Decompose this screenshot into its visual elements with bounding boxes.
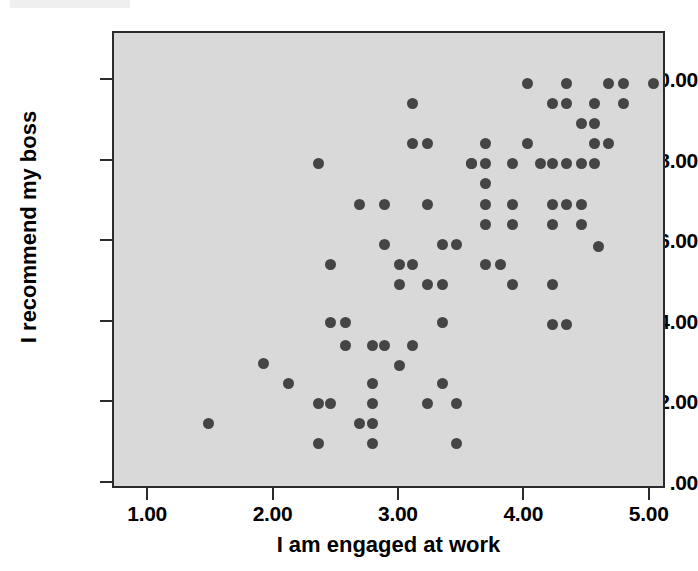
data-point [283, 378, 294, 389]
y-axis-tick [100, 78, 112, 80]
x-axis-tick-label: 3.00 [338, 503, 458, 524]
data-point [451, 438, 462, 449]
data-point [437, 317, 448, 328]
y-axis-tick [100, 320, 112, 322]
plot-area [112, 31, 665, 488]
data-point [422, 398, 433, 409]
data-point [589, 118, 600, 129]
data-point [648, 78, 659, 89]
data-point [561, 78, 572, 89]
data-point [618, 98, 629, 109]
y-axis-tick [100, 400, 112, 402]
data-point [603, 78, 614, 89]
data-point [407, 138, 418, 149]
data-point [340, 340, 351, 351]
data-point [547, 319, 558, 330]
data-point [547, 158, 558, 169]
data-point [507, 279, 518, 290]
data-point [367, 418, 378, 429]
data-point [589, 158, 600, 169]
data-point [313, 158, 324, 169]
x-axis-title: I am engaged at work [112, 532, 665, 558]
data-point [561, 158, 572, 169]
data-point [367, 438, 378, 449]
data-point [522, 78, 533, 89]
data-point [422, 138, 433, 149]
data-point [203, 418, 214, 429]
x-axis-tick [146, 488, 148, 500]
data-point [576, 219, 587, 230]
x-axis-tick-label: 2.00 [213, 503, 333, 524]
y-axis-tick [100, 481, 112, 483]
page-artifact [10, 0, 130, 8]
x-axis-tick [397, 488, 399, 500]
data-point [394, 360, 405, 371]
data-point [480, 199, 491, 210]
data-point [451, 398, 462, 409]
data-point [480, 178, 491, 189]
data-point [367, 378, 378, 389]
x-axis-tick-label: 4.00 [463, 503, 583, 524]
data-point [618, 78, 629, 89]
data-point [480, 138, 491, 149]
data-point [547, 199, 558, 210]
x-axis-tick-label: 1.00 [87, 503, 207, 524]
data-point [379, 199, 390, 210]
data-point [437, 239, 448, 250]
data-point [507, 219, 518, 230]
data-point [576, 158, 587, 169]
data-points-layer [114, 33, 663, 486]
data-point [507, 199, 518, 210]
x-axis-tick [648, 488, 650, 500]
data-point [325, 398, 336, 409]
data-point [535, 158, 546, 169]
x-axis-tick-label: 5.00 [589, 503, 698, 524]
data-point [394, 279, 405, 290]
data-point [480, 219, 491, 230]
data-point [325, 259, 336, 270]
data-point [407, 98, 418, 109]
data-point [379, 340, 390, 351]
data-point [258, 358, 269, 369]
data-point [451, 239, 462, 250]
data-point [547, 98, 558, 109]
data-point [313, 438, 324, 449]
data-point [313, 398, 324, 409]
data-point [480, 259, 491, 270]
data-point [437, 279, 448, 290]
data-point [466, 158, 477, 169]
x-axis-tick [522, 488, 524, 500]
data-point [561, 199, 572, 210]
data-point [367, 398, 378, 409]
y-axis-tick [100, 159, 112, 161]
data-point [522, 138, 533, 149]
data-point [576, 199, 587, 210]
data-point [593, 241, 604, 252]
data-point [354, 199, 365, 210]
data-point [394, 259, 405, 270]
data-point [407, 259, 418, 270]
scatter-plot-figure: I recommend my boss 10.008.006.004.002.0… [0, 0, 698, 571]
data-point [325, 317, 336, 328]
data-point [561, 98, 572, 109]
data-point [547, 219, 558, 230]
data-point [379, 239, 390, 250]
data-point [507, 158, 518, 169]
y-axis-tick [100, 239, 112, 241]
data-point [589, 138, 600, 149]
x-axis-tick [272, 488, 274, 500]
data-point [589, 98, 600, 109]
data-point [422, 279, 433, 290]
data-point [367, 340, 378, 351]
data-point [547, 279, 558, 290]
data-point [422, 199, 433, 210]
data-point [407, 340, 418, 351]
data-point [480, 158, 491, 169]
data-point [354, 418, 365, 429]
data-point [603, 138, 614, 149]
data-point [561, 319, 572, 330]
data-point [340, 317, 351, 328]
data-point [576, 118, 587, 129]
data-point [495, 259, 506, 270]
y-axis-title: I recommend my boss [16, 17, 42, 437]
